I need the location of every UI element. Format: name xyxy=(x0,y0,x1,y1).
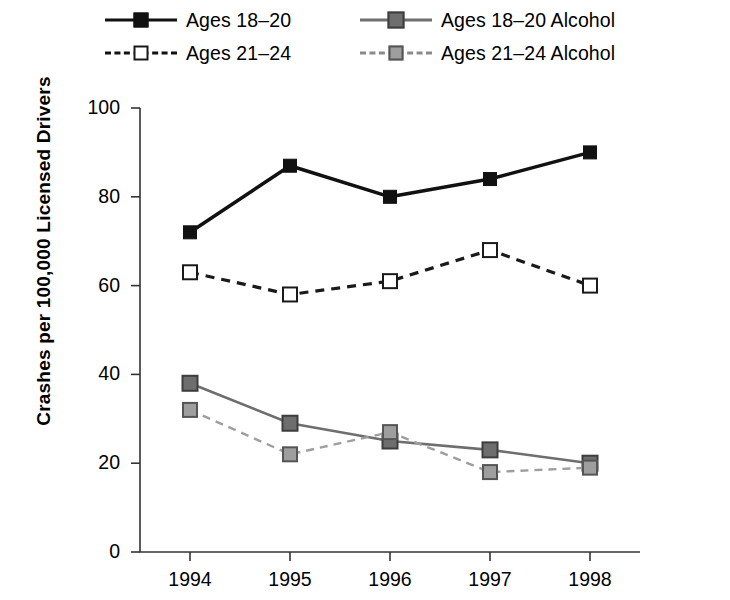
series-ages-18-20-alcohol xyxy=(183,376,598,471)
data-point-marker xyxy=(384,190,397,203)
series-ages-21-24 xyxy=(183,243,597,301)
legend-sample-ages-18-20-alcohol xyxy=(360,9,432,31)
legend-row-bottom: Ages 21–24 xyxy=(105,39,291,67)
y-axis-tick-label: 0 xyxy=(66,542,120,562)
series-layer xyxy=(140,108,640,552)
data-point-marker xyxy=(183,403,197,417)
legend-label-ages-21-24-alcohol: Ages 21–24 Alcohol xyxy=(441,42,615,65)
series-ages-18-20 xyxy=(184,146,597,239)
legend-row-bottom-right: Ages 21–24 Alcohol xyxy=(360,39,615,67)
legend-item-ages-21-24: Ages 21–24 xyxy=(105,42,291,65)
legend-sample-ages-21-24 xyxy=(105,42,177,64)
data-point-marker xyxy=(283,416,298,431)
filled-square-icon xyxy=(134,13,149,28)
light-gray-square-icon xyxy=(389,46,404,61)
legend-item-ages-18-20-alcohol: Ages 18–20 Alcohol xyxy=(360,9,615,32)
legend-row-top-right: Ages 18–20 Alcohol xyxy=(360,6,615,34)
data-point-marker xyxy=(183,376,198,391)
legend-item-ages-21-24-alcohol: Ages 21–24 Alcohol xyxy=(360,42,615,65)
chart-legend: Ages 18–20 Ages 18–20 Alcohol Ages 21–24 xyxy=(105,6,665,68)
data-point-marker xyxy=(583,461,597,475)
data-point-marker xyxy=(584,146,597,159)
x-axis-tick-label: 1998 xyxy=(545,570,635,590)
legend-sample-ages-21-24-alcohol xyxy=(360,42,432,64)
legend-item-ages-18-20: Ages 18–20 xyxy=(105,9,291,32)
x-axis-tick-label: 1996 xyxy=(345,570,435,590)
data-point-marker xyxy=(483,465,497,479)
data-point-marker xyxy=(383,274,397,288)
legend-row-top: Ages 18–20 xyxy=(105,6,291,34)
y-axis-tick-label: 60 xyxy=(66,276,120,296)
gray-square-icon xyxy=(388,12,405,29)
y-axis-tick-label: 80 xyxy=(66,187,120,207)
legend-label-ages-18-20: Ages 18–20 xyxy=(186,9,291,32)
plot-area xyxy=(140,108,640,552)
data-point-marker xyxy=(483,243,497,257)
open-square-icon xyxy=(134,46,149,61)
data-point-marker xyxy=(283,447,297,461)
data-point-marker xyxy=(283,287,297,301)
data-point-marker xyxy=(183,265,197,279)
data-point-marker xyxy=(184,226,197,239)
y-axis-tick-label: 100 xyxy=(66,98,120,118)
legend-label-ages-21-24: Ages 21–24 xyxy=(186,42,291,65)
legend-sample-ages-18-20 xyxy=(105,9,177,31)
series-line xyxy=(190,383,590,463)
x-axis-tick-label: 1995 xyxy=(245,570,335,590)
x-axis-tick-label: 1994 xyxy=(145,570,235,590)
data-point-marker xyxy=(483,442,498,457)
data-point-marker xyxy=(284,159,297,172)
data-point-marker xyxy=(583,279,597,293)
line-chart-figure: Ages 18–20 Ages 18–20 Alcohol Ages 21–24 xyxy=(0,0,730,600)
data-point-marker xyxy=(383,425,397,439)
data-point-marker xyxy=(484,173,497,186)
y-axis-title: Crashes per 100,000 Licensed Drivers xyxy=(33,41,55,461)
x-axis-tick-label: 1997 xyxy=(445,570,535,590)
y-axis-tick-label: 20 xyxy=(66,453,120,473)
legend-label-ages-18-20-alcohol: Ages 18–20 Alcohol xyxy=(441,9,615,32)
y-axis-tick-label: 40 xyxy=(66,364,120,384)
